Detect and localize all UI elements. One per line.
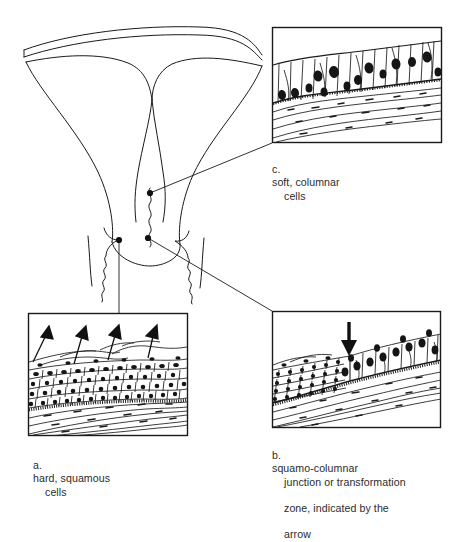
uterus-wall-right — [179, 66, 262, 244]
caption-c-letter: c. — [272, 163, 280, 175]
caption-panel-b: b. squamo-columnar junction or transform… — [272, 436, 447, 542]
panel-c-illustration — [273, 28, 442, 143]
uterus-wall-left — [26, 62, 113, 242]
caption-panel-a: a. hard, squamous cells — [33, 446, 198, 512]
caption-b-letter: b. — [272, 449, 281, 461]
panel-a-illustration — [29, 314, 188, 437]
marker-dot-a — [116, 237, 122, 243]
caption-b-line2: junction or transformation — [272, 476, 447, 489]
caption-a-line1: hard, squamous — [33, 472, 110, 484]
caption-a-letter: a. — [33, 459, 42, 471]
leader-line-c — [150, 143, 272, 193]
caption-b-line3: zone, indicated by the — [272, 502, 447, 515]
panel-c-border — [273, 28, 442, 143]
vaginal-fornix-left — [102, 228, 118, 302]
caption-b-line1: squamo-columnar — [272, 462, 358, 474]
caption-c-line1: soft, columnar — [272, 176, 340, 188]
ectocervix-contour — [112, 242, 180, 266]
caption-b-line4: arrow — [272, 528, 447, 541]
uterus-cervix-anatomy — [24, 27, 262, 304]
uterine-cavity-left — [26, 56, 152, 100]
vaginal-fornix-right — [175, 231, 192, 304]
caption-a-line2: cells — [33, 486, 198, 499]
leader-lines — [119, 143, 272, 313]
marker-dot-c — [147, 190, 153, 196]
leader-line-b — [148, 238, 272, 311]
caption-panel-c: c. soft, columnar cells — [272, 150, 402, 216]
fundus-outer-line — [24, 27, 262, 55]
marker-dots — [116, 190, 153, 243]
marker-dot-b — [145, 235, 151, 241]
panel-b-illustration — [273, 312, 442, 428]
caption-c-line2: cells — [272, 190, 402, 203]
